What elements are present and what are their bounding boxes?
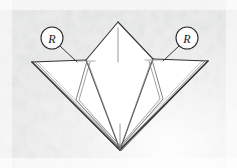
right-repeat-label: R — [182, 32, 191, 46]
left-repeat-label: R — [47, 32, 56, 46]
edge-vignette-left — [0, 0, 12, 168]
origami-diagram-figure: R R — [0, 0, 237, 168]
edge-vignette-top — [0, 0, 237, 10]
edge-vignette-bottom — [0, 158, 237, 168]
origami-diagram-canvas: R R — [0, 0, 237, 168]
edge-vignette-right — [226, 0, 237, 168]
